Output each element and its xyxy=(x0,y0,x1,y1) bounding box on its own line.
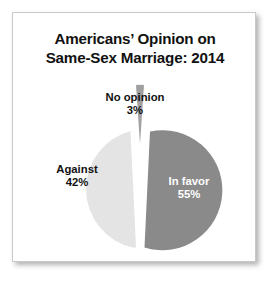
pie-slice-against[interactable] xyxy=(86,131,136,247)
page-title: Americans’ Opinion on Same-Sex Marriage:… xyxy=(13,29,257,67)
title-line-2: Same-Sex Marriage: 2014 xyxy=(13,48,257,67)
pie-chart-svg xyxy=(13,71,257,261)
title-line-1: Americans’ Opinion on xyxy=(13,29,257,48)
pie-slice-no-opinion[interactable] xyxy=(136,85,144,144)
pie-slice-in-favor[interactable] xyxy=(145,130,223,250)
pie-chart: No opinion 3% Against 42% In favor 55% xyxy=(13,71,257,261)
chart-card: Americans’ Opinion on Same-Sex Marriage:… xyxy=(12,12,256,262)
screenshot-stage: Americans’ Opinion on Same-Sex Marriage:… xyxy=(0,0,275,284)
